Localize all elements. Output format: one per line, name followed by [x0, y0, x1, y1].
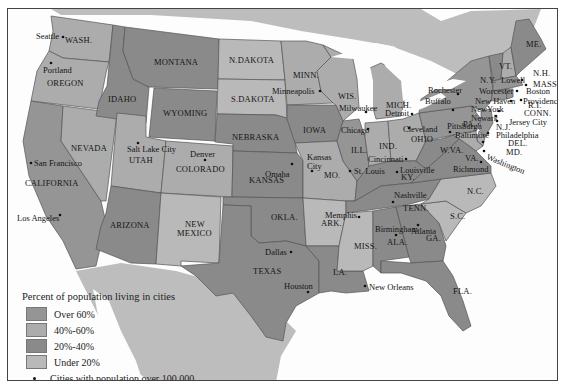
city-minneapolis: Minneapolis [272, 86, 315, 96]
label-montana: MONTANA [154, 57, 199, 67]
label-tenn: TENN. [403, 203, 429, 213]
label-md: MD. [506, 147, 522, 157]
legend-label: Under 20% [54, 357, 100, 368]
city-philadelphia: Philadelphia [496, 130, 539, 140]
city-jerseycity: Jersey City [509, 117, 548, 127]
label-texas: TEXAS [253, 266, 281, 276]
legend-item-cities: Cities with population over 100,000 [22, 371, 262, 381]
label-mo: MO. [324, 170, 340, 180]
city-saltlake: Salt Lake City [127, 144, 177, 154]
label-idaho: IDAHO [108, 94, 136, 104]
label-la: LA. [333, 267, 347, 277]
legend-title: Percent of population living in cities [22, 291, 262, 302]
city-memphis: Memphis [325, 210, 357, 220]
city-boston: Boston [526, 86, 551, 96]
city-providence: Providence [523, 96, 558, 106]
city-sanfrancisco: San Francisco [34, 158, 82, 168]
label-arizona: ARIZONA [110, 220, 150, 230]
legend-label: 40%-60% [54, 325, 94, 336]
label-nebraska: NEBRASKA [232, 132, 280, 142]
city-detroit: Detroit [385, 108, 410, 118]
label-nc: N.C. [467, 186, 484, 196]
label-sc: S.C. [450, 211, 465, 221]
label-nevada: NEVADA [71, 143, 108, 153]
legend-label: Cities with population over 100,000 [50, 373, 194, 382]
label-minn: MINN. [293, 70, 319, 80]
label-wash: WASH. [65, 35, 92, 45]
label-california: CALIFORNIA [25, 178, 79, 188]
label-wis: WIS. [338, 91, 357, 101]
city-cleveland: Cleveland [403, 124, 438, 134]
label-ill: ILL. [351, 145, 367, 155]
label-utah: UTAH [129, 155, 153, 165]
label-nh: N.H. [533, 68, 550, 78]
legend-item-under-20: Under 20% [22, 354, 262, 370]
city-cincinnati: Cincinnati [368, 154, 404, 164]
label-okla: OKLA. [271, 212, 298, 222]
state-iowa[interactable] [287, 105, 343, 143]
legend-item-over-60: Over 60% [22, 306, 262, 322]
city-buffalo: Buffalo [425, 96, 451, 106]
legend-item-20-40: 20%-40% [22, 338, 262, 354]
label-colorado: COLORADO [176, 164, 225, 174]
city-seattle: Seattle [36, 31, 59, 41]
label-ny: N.Y. [480, 75, 496, 85]
city-milwaukee: Milwaukee [339, 103, 377, 113]
city-worcester: Worcester [479, 86, 513, 96]
label-wva: W.VA. [440, 145, 464, 155]
label-va: VA. [465, 153, 479, 163]
city-richmond: Richmond [453, 164, 489, 174]
legend-swatch [26, 307, 47, 321]
label-ala: ALA. [387, 237, 407, 247]
legend-swatch [26, 355, 47, 369]
city-portland: Portland [43, 65, 73, 75]
city-newark: Newark [471, 113, 499, 123]
legend-label: Over 60% [54, 309, 95, 320]
city-nashville: Nashville [394, 190, 427, 200]
label-ndakota: N.DAKOTA [229, 55, 275, 65]
legend-swatch [26, 323, 47, 337]
city-neworleans: New Orleans [369, 282, 414, 292]
label-miss: MISS. [354, 241, 377, 251]
label-ind: IND. [379, 141, 397, 151]
label-newmexico-2: MEXICO [177, 228, 212, 238]
city-losangeles: Los Angeles [17, 213, 59, 223]
legend-item-40-60: 40%-60% [22, 322, 262, 338]
map-frame: WASH. OREGON CALIFORNIA NEVADA IDAHO MON… [7, 8, 558, 381]
city-rochester: Rochester [428, 85, 462, 95]
city-baltimore: Baltimore [455, 130, 489, 140]
city-kansascity-2: City [307, 161, 322, 171]
city-dot-icon [33, 377, 36, 380]
city-omaha: Omaha [265, 169, 290, 179]
city-lowell: Lowell [501, 75, 526, 85]
legend-swatch [26, 339, 47, 353]
map-legend: Percent of population living in cities O… [22, 291, 262, 381]
label-wyoming: WYOMING [163, 108, 207, 118]
label-vt: VT. [499, 61, 512, 71]
city-stlouis: St. Louis [354, 166, 385, 176]
city-atlanta: Atlanta [411, 226, 436, 236]
label-fla: FLA. [453, 286, 472, 296]
label-oregon: OREGON [47, 78, 84, 88]
legend-label: 20%-40% [54, 341, 94, 352]
label-me: ME. [526, 39, 541, 49]
label-ohio: OHIO [411, 134, 433, 144]
label-iowa: IOWA [303, 125, 327, 135]
city-houston: Houston [284, 281, 314, 291]
city-denver: Denver [190, 149, 215, 159]
label-sdakota: S.DAKOTA [231, 94, 275, 104]
city-dallas: Dallas [265, 247, 287, 257]
city-louisville: Louisville [400, 165, 435, 175]
city-chicago: Chicago [341, 125, 369, 135]
